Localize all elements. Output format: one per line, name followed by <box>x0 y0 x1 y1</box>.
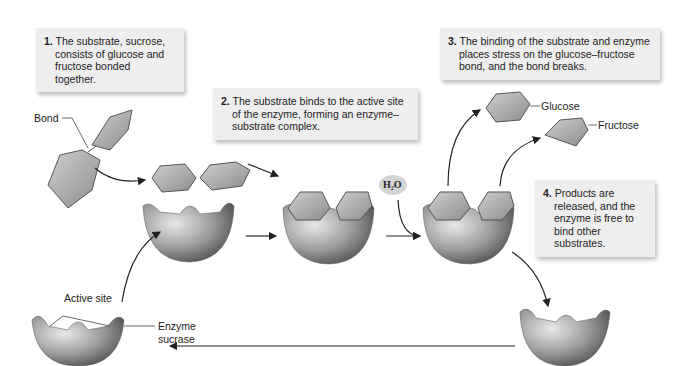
enzyme-substrate-complex <box>283 192 374 264</box>
step-3-box: 3. The binding of the substrate and enzy… <box>440 28 660 80</box>
active-site-label: Active site <box>64 292 112 304</box>
enzyme-label: Enzyme <box>158 320 196 332</box>
enzyme-step1 <box>143 203 234 262</box>
step-4-box: 4. Products are released, and the enzyme… <box>535 180 655 257</box>
step-4-text: Products are released, and the enzyme is… <box>554 187 635 249</box>
enzyme-bond-broken <box>423 192 514 264</box>
sucrose-molecule <box>48 110 132 208</box>
bond-label: Bond <box>34 112 59 124</box>
enzyme-sucrase <box>32 316 155 366</box>
enzyme-released <box>520 309 610 366</box>
step-1-text: The substrate, sucrose, consists of gluc… <box>55 35 165 85</box>
sucrose-approaching <box>152 162 250 192</box>
step-2-box: 2. The substrate binds to the active sit… <box>213 88 418 140</box>
step-2-text: The substrate binds to the active site o… <box>232 95 404 132</box>
step-1-box: 1. The substrate, sucrose, consists of g… <box>36 28 184 92</box>
fructose-label: Fructose <box>598 119 639 131</box>
fructose-molecule <box>545 118 597 146</box>
water-label: H₂O <box>383 179 402 190</box>
step-3-text: The binding of the substrate and enzyme … <box>459 35 650 72</box>
sucrase-label: sucrase <box>158 333 195 345</box>
glucose-label: Glucose <box>541 100 580 112</box>
glucose-molecule <box>486 92 540 122</box>
